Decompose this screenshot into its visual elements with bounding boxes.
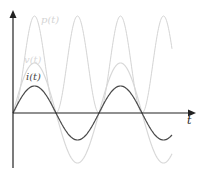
waveform-chart: t p(t)v(t)i(t)	[0, 0, 205, 175]
curves-group	[13, 16, 172, 163]
axes-group: t	[10, 10, 197, 168]
series-vt-label: v(t)	[24, 54, 42, 65]
series-it-label: i(t)	[26, 71, 41, 82]
x-axis-label: t	[187, 114, 192, 127]
series-pt-label: p(t)	[41, 14, 59, 25]
series-labels: p(t)v(t)i(t)	[24, 14, 59, 82]
y-axis-arrow-icon	[10, 10, 17, 18]
